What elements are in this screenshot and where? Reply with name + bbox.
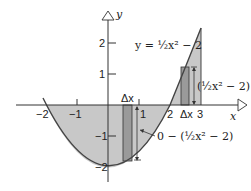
left-delta-x-label: Δx — [121, 92, 134, 104]
y-axis-arrow-icon — [102, 11, 114, 20]
y-tick-label: −1 — [95, 130, 108, 142]
x-axis-label: x — [230, 110, 237, 123]
y-tick-label: 2 — [99, 37, 105, 49]
x-tick-label: −1 — [69, 108, 82, 120]
area-between-curves-diagram: −2 −1 1 2 3 2 1 −1 −2 y x y = ½x² − 2 Δx… — [0, 0, 251, 191]
right-height-label: (½x² − 2) — [197, 80, 250, 93]
y-tick-label: −2 — [95, 161, 108, 173]
function-label: y = ½x² − 2 — [134, 39, 202, 52]
x-tick-label: 2 — [167, 108, 173, 120]
x-tick-label: 3 — [197, 108, 203, 120]
left-strip — [123, 105, 132, 161]
right-strip — [181, 67, 189, 105]
x-tick-label: 1 — [140, 108, 146, 120]
right-delta-x-label: Δx — [180, 108, 193, 120]
left-height-label: 0 − (½x² − 2) — [157, 130, 233, 143]
y-axis-label: y — [115, 8, 123, 21]
x-tick-label: −2 — [36, 108, 49, 120]
y-tick-label: 1 — [99, 68, 105, 80]
x-axis-arrow-icon — [238, 99, 247, 111]
